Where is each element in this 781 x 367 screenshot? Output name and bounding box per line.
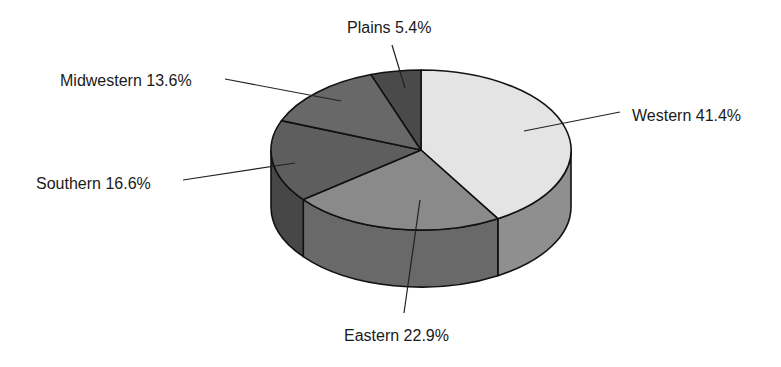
label-plains: Plains 5.4%	[347, 19, 432, 36]
pie-chart: Plains 5.4% Midwestern 13.6% Southern 16…	[0, 0, 781, 367]
label-midwestern: Midwestern 13.6%	[60, 72, 192, 89]
label-eastern: Eastern 22.9%	[344, 327, 449, 344]
label-western: Western 41.4%	[632, 107, 741, 124]
pie-slices	[271, 70, 571, 230]
label-southern: Southern 16.6%	[36, 175, 151, 192]
